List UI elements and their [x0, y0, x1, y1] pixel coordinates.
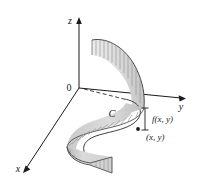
- figure-canvas: z y x 0 C f(x, y) (x, y): [0, 0, 202, 193]
- point-label: (x, y): [146, 132, 164, 142]
- line-integral-figure: z y x 0 C f(x, y) (x, y): [0, 0, 202, 193]
- y-axis-label: y: [178, 101, 184, 112]
- z-axis-label: z: [67, 15, 72, 26]
- x-axis-label: x: [15, 163, 21, 174]
- point-marker-dot: [136, 127, 140, 131]
- curtain-surface-upper: [92, 40, 144, 112]
- origin-label: 0: [67, 82, 72, 93]
- curve-C-label: C: [108, 108, 116, 119]
- curtain-surface-tail: [67, 147, 112, 173]
- z-axis-arrowhead: [76, 17, 82, 24]
- x-axis-arrowhead: [23, 165, 30, 173]
- curtain-tail-fill: [67, 147, 112, 173]
- height-label: f(x, y): [152, 114, 173, 124]
- curtain-surface-lower: [67, 103, 144, 149]
